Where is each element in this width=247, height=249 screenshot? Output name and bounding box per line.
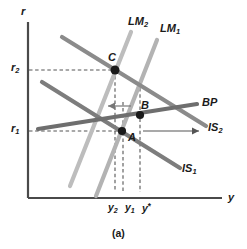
point-label-B: B (141, 100, 149, 111)
tick-label-y2: y2 (108, 202, 118, 215)
tick-label-ystar: y* (142, 202, 151, 213)
y-axis-label: y (228, 192, 234, 203)
figure-caption: (a) (112, 227, 125, 239)
point-C (111, 66, 120, 75)
point-label-A: A (128, 132, 136, 143)
curve-lm2 (70, 32, 131, 186)
tick-label-r2: r2 (11, 62, 19, 74)
curve-label-lm2: LM2 (128, 16, 148, 28)
tick-label-y1: y1 (125, 202, 135, 215)
curve-label-is1: IS1 (182, 163, 197, 175)
r-axis-label: r (21, 6, 25, 17)
tick-label-r1: r1 (11, 123, 19, 135)
curve-label-lm1: LM1 (160, 23, 180, 35)
point-label-C: C (108, 52, 116, 63)
curve-bp (38, 104, 197, 129)
curve-label-is2: IS2 (208, 122, 223, 134)
point-A (118, 127, 126, 135)
figure-container: r y r2 r1 y2 y1 y* LM2 LM1 IS1 IS2 BP A … (0, 0, 247, 249)
point-B (136, 111, 144, 119)
curve-label-bp: BP (202, 97, 217, 108)
